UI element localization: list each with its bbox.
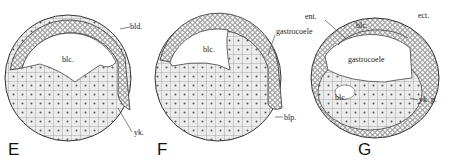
embryo-f	[155, 13, 282, 141]
label-blp: blp.	[284, 113, 296, 122]
label-blc-bottom: blc.	[335, 93, 347, 102]
embryo-illustrations	[0, 0, 451, 164]
label-ect: ect.	[418, 11, 429, 20]
label-gastrocoele: gastrocoele	[348, 55, 384, 64]
label-gastrocoele: gastrocoele	[276, 27, 312, 36]
panel-letter-e: E	[8, 140, 19, 160]
label-yk: yk.	[134, 128, 144, 137]
label-blc-top: blc.	[356, 21, 368, 30]
embryo-e	[5, 15, 131, 141]
label-yk-p: yk. p.	[419, 95, 437, 104]
embryo-g	[311, 18, 439, 138]
panel-letter-g: G	[358, 140, 371, 160]
label-ent: ent.	[305, 12, 317, 21]
label-blc: blc.	[62, 55, 74, 64]
label-bld: bld.	[130, 22, 142, 31]
panel-letter-f: F	[157, 140, 167, 160]
label-blc: blc.	[203, 45, 215, 54]
